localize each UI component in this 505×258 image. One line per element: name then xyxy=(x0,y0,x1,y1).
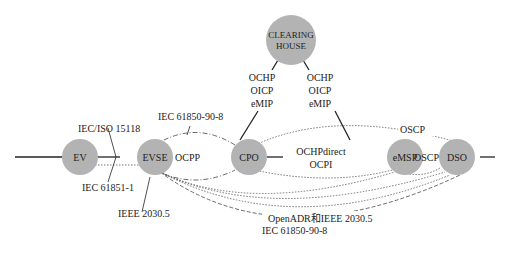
node-cpo-label: CPO xyxy=(239,152,258,163)
label-ochpdirect: OCHPdirect xyxy=(296,146,346,157)
protocol-diagram: EV EVSE CPO eMSP DSO CLEARING HOUSE IEC/… xyxy=(0,0,505,258)
label-oscp-top: OSCP xyxy=(400,124,425,135)
node-ev-label: EV xyxy=(73,152,87,163)
label-ch-cpo-ochp: OCHP xyxy=(249,72,276,83)
pointer-61850-top xyxy=(187,126,190,135)
label-iec-61851-1: IEC 61851-1 xyxy=(82,182,134,193)
label-ch-emsp-emip: eMIP xyxy=(309,98,332,109)
label-ch-cpo-emip: eMIP xyxy=(251,98,274,109)
label-oscp-mid: OSCP xyxy=(414,152,439,163)
label-iec-61850-90-8-bottom: IEC 61850-90-8 xyxy=(262,225,327,236)
label-ieee-2030-5: IEEE 2030.5 xyxy=(118,208,170,219)
edge-ch-emsp xyxy=(335,111,350,140)
label-ocpp: OCPP xyxy=(175,152,200,163)
edge-ch-cpo xyxy=(240,111,258,140)
label-iec-iso-15118: IEC/ISO 15118 xyxy=(78,123,140,134)
node-dso-label: DSO xyxy=(447,152,467,163)
pointer-15118-61851 xyxy=(108,128,116,182)
label-ocpi: OCPI xyxy=(310,159,333,170)
node-evse-label: EVSE xyxy=(143,152,168,163)
edge-ch-emsp-top xyxy=(303,60,309,70)
node-clearing-house xyxy=(266,15,316,65)
label-iec-61850-90-8-top: IEC 61850-90-8 xyxy=(158,111,223,122)
edge-ch-cpo-top xyxy=(272,60,278,70)
node-clearing-house-label-2: HOUSE xyxy=(276,41,307,51)
node-clearing-house-label-1: CLEARING xyxy=(268,30,314,40)
label-ch-cpo-oicp: OICP xyxy=(251,85,274,96)
pointer-ieee xyxy=(142,177,150,212)
label-openadr-ieee: OpenADR和IEEE 2030.5 xyxy=(268,213,372,224)
label-ch-emsp-oicp: OICP xyxy=(309,85,332,96)
label-ch-emsp-ochp: OCHP xyxy=(307,72,334,83)
edge-evse-dso-61850 xyxy=(160,172,460,217)
